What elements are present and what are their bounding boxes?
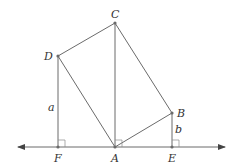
segment-da xyxy=(58,56,115,147)
point-e xyxy=(170,145,173,148)
point-b xyxy=(170,111,173,114)
label-c: C xyxy=(111,8,120,21)
point-d xyxy=(56,54,59,57)
label-d: D xyxy=(43,50,53,63)
geometry-diagram: C D B F A E a b xyxy=(0,0,236,168)
label-f: F xyxy=(53,152,62,165)
label-b: B xyxy=(176,107,185,120)
point-c xyxy=(113,21,116,24)
segment-bc xyxy=(115,23,172,113)
length-label-b: b xyxy=(175,123,182,136)
label-e: E xyxy=(167,152,176,165)
point-f xyxy=(56,145,59,148)
segment-cd xyxy=(58,23,115,56)
label-a: A xyxy=(110,152,119,165)
segment-ab xyxy=(115,113,172,147)
point-a xyxy=(113,145,116,148)
length-label-a: a xyxy=(48,101,55,114)
